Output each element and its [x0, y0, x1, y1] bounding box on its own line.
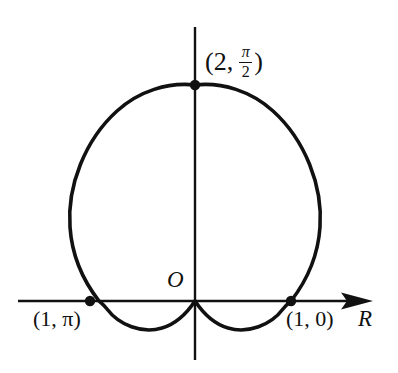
- point-label-top: (2, π 2 ): [205, 44, 263, 81]
- fraction-numerator: π: [240, 44, 252, 61]
- point-label-left: (1, π): [33, 308, 81, 330]
- origin-label: O: [167, 268, 184, 291]
- fraction-denominator: 2: [240, 64, 252, 81]
- point-label-top-close: ): [254, 49, 263, 75]
- point-marker-left: [85, 296, 95, 306]
- cardioid-figure: (2, π 2 ) (1, π) (1, 0) R O: [0, 0, 398, 373]
- point-marker-top: [190, 80, 200, 90]
- point-label-right: (1, 0): [286, 308, 334, 330]
- point-marker-right: [286, 296, 296, 306]
- axis-label-r: R: [358, 307, 372, 330]
- point-label-top-open: (2,: [205, 49, 233, 75]
- fraction-pi-over-2: π 2: [239, 44, 252, 81]
